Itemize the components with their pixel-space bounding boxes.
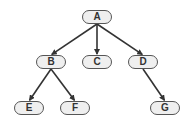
node-a: A	[82, 10, 112, 24]
node-c: C	[82, 55, 112, 69]
tree-diagram: A B C D E F G	[0, 0, 193, 124]
edge-d-g	[143, 69, 164, 100]
node-f: F	[60, 101, 90, 115]
node-d: D	[128, 55, 158, 69]
edge-a-d	[97, 24, 142, 54]
node-b: B	[36, 55, 66, 69]
edge-b-e	[30, 69, 51, 100]
edge-a-b	[52, 24, 97, 54]
node-e: E	[14, 101, 44, 115]
node-g: G	[150, 101, 180, 115]
edge-b-f	[51, 69, 74, 100]
